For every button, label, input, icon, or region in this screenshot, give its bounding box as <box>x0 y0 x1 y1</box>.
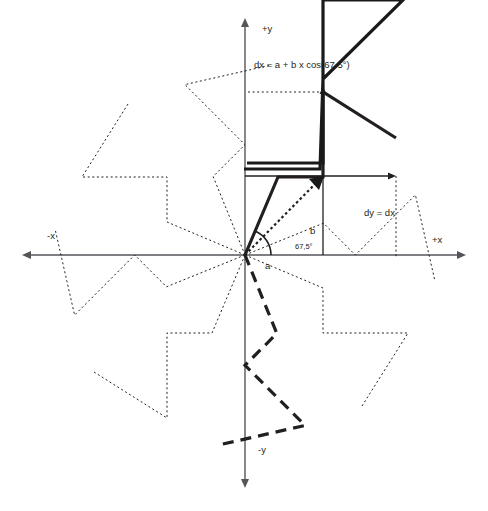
dx-formula-label: dx = a + b x cos(67.5°) <box>254 59 350 70</box>
diagram-canvas: +y -y +x -x dx = a + b x cos(67.5°) dy =… <box>0 0 488 511</box>
segment-a-label: a <box>265 260 271 271</box>
segment-b-label: b <box>310 225 315 236</box>
dy-equals-dx-label: dy = dx <box>364 207 395 218</box>
star-arm-2 <box>245 255 408 406</box>
star-arm-1 <box>245 195 435 279</box>
x-axis-negative-arrowhead <box>22 251 31 259</box>
axis-label-positive-x: +x <box>432 234 443 245</box>
axis-label-positive-y: +y <box>262 23 273 34</box>
axes-group <box>22 18 466 488</box>
dy-measure-arrowhead <box>388 173 396 180</box>
star-arm-3 <box>221 255 305 445</box>
y-axis-negative-arrowhead <box>241 479 249 488</box>
axis-label-negative-x: -x <box>47 230 55 241</box>
construction-diagram-svg: +y -y +x -x dx = a + b x cos(67.5°) dy =… <box>0 0 488 511</box>
star-arm-6 <box>82 104 245 255</box>
star-arm-5 <box>56 231 246 315</box>
y-axis-positive-arrowhead <box>241 18 249 27</box>
star-arm-4 <box>94 255 245 418</box>
x-axis-positive-arrowhead <box>457 251 466 259</box>
axis-label-negative-y: -y <box>258 444 266 455</box>
angle-value-label: 67,5° <box>295 242 313 251</box>
